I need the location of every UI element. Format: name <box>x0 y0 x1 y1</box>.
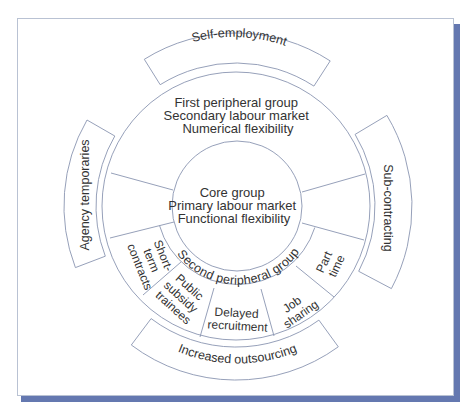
segment-part-time: Part time <box>313 246 348 280</box>
core-group-label: Core group Primary labour market Functio… <box>168 185 300 226</box>
svg-text:Sub-contracting: Sub-contracting <box>381 164 395 252</box>
svg-text:Delayed recruitment: Delayed recruitment <box>207 304 269 334</box>
flexible-firm-diagram: First peripheral group Secondary labour … <box>0 0 475 416</box>
divider-lower-left <box>110 222 174 238</box>
segment-delayed-recruitment: Delayed recruitment <box>207 304 269 334</box>
sub-contracting-label: Sub-contracting <box>381 164 395 252</box>
svg-text:Part time: Part time <box>313 246 348 280</box>
divider-upper-right <box>302 174 365 192</box>
svg-text:Agency temporaries: Agency temporaries <box>78 139 92 250</box>
first-peripheral-label: First peripheral group Secondary labour … <box>164 95 313 136</box>
agency-temporaries-label: Agency temporaries <box>78 139 92 250</box>
divider-upper-left <box>111 173 173 190</box>
band-self-employment <box>144 33 330 86</box>
